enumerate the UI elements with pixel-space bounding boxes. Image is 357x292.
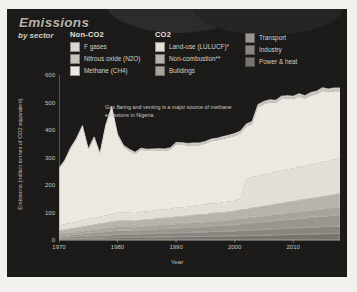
legend-item-industry[interactable]: Industry xyxy=(245,45,297,55)
legend-item-buildings[interactable]: Buildings xyxy=(155,66,229,76)
legend-item-nitrous-oxide[interactable]: Nitrous oxide (N2O) xyxy=(70,54,140,64)
y-tick-label: 100 xyxy=(31,210,55,216)
legend-swatch xyxy=(70,54,80,64)
chart-figure: Emissions by sector Non-CO2 F gases Nitr… xyxy=(7,9,347,277)
legend-label: Land-use (LULUCF)* xyxy=(169,43,229,51)
legend-label: Methane (CH4) xyxy=(84,67,128,75)
chart-subtitle: by sector xyxy=(18,31,54,40)
page-title: Emissions xyxy=(19,15,89,30)
legend-group-title: Non-CO2 xyxy=(70,30,140,39)
y-tick-label: 500 xyxy=(31,100,55,106)
chart-annotation: Gas flaring and venting is a major sourc… xyxy=(105,103,245,119)
legend-label: Transport xyxy=(259,34,286,42)
legend-label: Non-combustion** xyxy=(169,55,221,63)
legend-swatch xyxy=(155,42,165,52)
legend-label: Power & heat xyxy=(259,58,297,66)
y-tick-label: 400 xyxy=(31,127,55,133)
x-axis-label: Year xyxy=(7,258,347,265)
y-tick-label: 0 xyxy=(31,237,55,243)
y-axis-ticks: 0100200300400500600 xyxy=(29,75,55,240)
legend-swatch xyxy=(70,42,80,52)
legend-swatch xyxy=(245,45,255,55)
legend-label: Buildings xyxy=(169,67,195,75)
legend-item-power-heat[interactable]: Power & heat xyxy=(245,57,297,67)
plot-area: Emissions (million tonnes of CO2 equival… xyxy=(7,75,347,277)
legend-group-non-co2: Non-CO2 F gases Nitrous oxide (N2O) Meth… xyxy=(70,30,140,78)
y-axis-label: Emissions (million tonnes of CO2 equival… xyxy=(17,84,23,224)
legend-label: Nitrous oxide (N2O) xyxy=(84,55,140,63)
legend-swatch xyxy=(70,66,80,76)
legend-label: F gases xyxy=(84,43,107,51)
legend-item-non-combustion[interactable]: Non-combustion** xyxy=(155,54,229,64)
legend-swatch xyxy=(155,66,165,76)
legend-item-methane[interactable]: Methane (CH4) xyxy=(70,66,140,76)
legend-group-co2: CO2 Land-use (LULUCF)* Non-combustion** … xyxy=(155,30,229,78)
legend-label: Industry xyxy=(259,46,282,54)
legend-item-f-gases[interactable]: F gases xyxy=(70,42,140,52)
y-tick-label: 300 xyxy=(31,155,55,161)
y-tick-label: 200 xyxy=(31,182,55,188)
legend-swatch xyxy=(155,54,165,64)
legend-group-co2-continued: Transport Industry Power & heat xyxy=(245,30,297,69)
legend-swatch xyxy=(245,33,255,43)
legend-item-land-use[interactable]: Land-use (LULUCF)* xyxy=(155,42,229,52)
legend-item-transport[interactable]: Transport xyxy=(245,33,297,43)
legend-swatch xyxy=(245,57,255,67)
chart-header: Emissions by sector Non-CO2 F gases Nitr… xyxy=(7,9,347,75)
legend-group-title: CO2 xyxy=(155,30,229,39)
stacked-area-svg xyxy=(59,75,340,247)
